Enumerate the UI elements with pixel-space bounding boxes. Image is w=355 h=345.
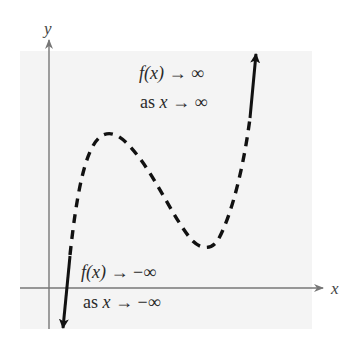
curve-right-end-arrow — [250, 54, 256, 118]
right-end-annotation-line1: f(x) → ∞ — [139, 64, 204, 82]
left-end-annotation-line2: as x → −∞ — [83, 293, 160, 311]
variable: x — [103, 292, 111, 312]
y-axis-label: y — [44, 20, 52, 37]
end-behavior-diagram: y x f(x) → ∞ as x → ∞ f(x) → −∞ as x → −… — [0, 0, 355, 345]
plot-canvas — [0, 0, 355, 345]
right-end-annotation-line2: as x → ∞ — [140, 93, 207, 111]
limit-expr: → ∞ — [164, 63, 204, 83]
function-expr: f(x) — [81, 262, 106, 282]
curve-dashed-middle — [70, 118, 250, 255]
limit-expr: → ∞ — [168, 92, 208, 112]
left-end-annotation-line1: f(x) → −∞ — [81, 263, 156, 281]
function-expr: f(x) — [139, 63, 164, 83]
as-text: as — [140, 92, 160, 112]
variable: x — [160, 92, 168, 112]
curve-left-end-arrow — [63, 256, 70, 328]
limit-expr: → −∞ — [111, 292, 161, 312]
as-text: as — [83, 292, 103, 312]
limit-expr: → −∞ — [106, 262, 156, 282]
x-axis-label: x — [331, 280, 339, 297]
